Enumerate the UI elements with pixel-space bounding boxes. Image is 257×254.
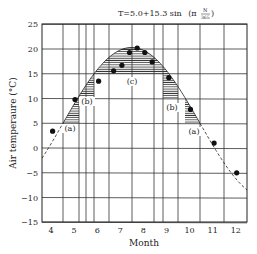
x-tick-label: 6 (95, 226, 100, 235)
chart-title: T=5.0+15.3 sin (π (118, 9, 197, 18)
y-tick-label: −10 (21, 194, 38, 203)
data-point (212, 141, 217, 146)
data-point (50, 129, 55, 134)
region-label: (b) (166, 103, 177, 112)
data-point (119, 63, 124, 68)
y-tick-label: −5 (26, 169, 38, 178)
x-tick-label: 12 (231, 226, 241, 235)
data-point (234, 170, 239, 175)
y-tick-label: 10 (28, 95, 38, 104)
x-tick-label: 9 (164, 226, 169, 235)
region-label: (a) (188, 127, 199, 136)
y-tick-label: 15 (28, 70, 38, 79)
air-temperature-chart: T=5.0+15.3 sin (π N 365 ) (a)(b)(c)(b)(a… (0, 0, 257, 254)
x-tick-label: 5 (72, 226, 77, 235)
y-tick-label: 0 (33, 144, 38, 153)
x-tick-label: 8 (141, 226, 146, 235)
y-tick-label: 5 (33, 119, 38, 128)
horizontal-gridline (42, 148, 247, 149)
horizontal-gridline (42, 198, 247, 199)
hatched-region (163, 66, 178, 98)
chart-title-close: ) (211, 9, 214, 18)
data-point (72, 97, 77, 102)
chart-title-fraction-numerator: N (203, 7, 208, 13)
y-tick-label: 25 (28, 20, 38, 29)
x-tick-label: 7 (118, 226, 123, 235)
y-axis-label: Air temperaure (°C) (8, 77, 18, 169)
y-tick-label: 20 (28, 45, 38, 54)
data-point (127, 50, 132, 55)
data-point (150, 59, 155, 64)
x-tick-label: 10 (185, 226, 195, 235)
data-point (142, 50, 147, 55)
region-label: (a) (64, 124, 75, 133)
x-tick-label: 11 (208, 226, 218, 235)
data-point (135, 45, 140, 50)
curve-extrapolated-segment (42, 123, 63, 158)
data-point (96, 79, 101, 84)
region-label: (b) (81, 97, 92, 106)
x-axis-ticks: 456789101112 (48, 226, 240, 235)
curve-extrapolated-segment (200, 123, 247, 190)
data-point (111, 68, 116, 73)
chart-title-fraction-denominator: 365 (201, 15, 210, 20)
horizontal-gridline (42, 173, 247, 174)
data-point (188, 107, 193, 112)
x-tick-label: 4 (48, 226, 53, 235)
y-axis-ticks: 2520151050−5−10−15 (21, 20, 38, 227)
data-point (166, 75, 171, 80)
x-axis-label: Month (129, 238, 159, 248)
region-label: (c) (127, 77, 138, 86)
y-tick-label: −15 (21, 218, 38, 227)
